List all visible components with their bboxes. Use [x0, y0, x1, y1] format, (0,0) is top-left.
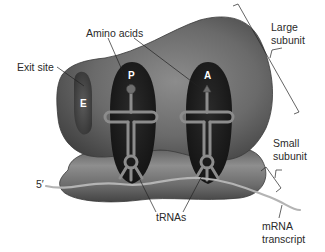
large-subunit-label-line2: subunit: [271, 34, 305, 46]
small-subunit-label-line2: subunit: [273, 150, 307, 162]
p-site-letter: P: [128, 70, 135, 81]
amino-acid-p: [127, 85, 136, 94]
leader-mrna: [279, 205, 282, 218]
ribosome-diagram: E P A Amino acids Exit site Large subuni…: [0, 0, 325, 252]
a-site-letter: A: [204, 70, 211, 81]
e-site-letter: E: [80, 98, 87, 109]
mrna-label-line2: transcript: [262, 233, 305, 245]
exit-site-label: Exit site: [17, 61, 54, 73]
small-subunit-label-line1: Small: [273, 137, 299, 149]
mrna-label-line1: mRNA: [262, 220, 293, 232]
amino-acids-label: Amino acids: [86, 27, 143, 39]
trnas-label: tRNAs: [156, 211, 186, 223]
large-subunit-label-line1: Large: [271, 21, 298, 33]
five-prime-label: 5′: [36, 178, 44, 190]
